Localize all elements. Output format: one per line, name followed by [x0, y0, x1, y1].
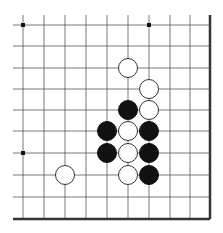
white-stone — [118, 58, 138, 78]
white-stone — [139, 79, 159, 99]
go-board — [0, 0, 223, 233]
white-stone — [139, 100, 159, 120]
black-stone — [97, 143, 117, 163]
black-stone — [118, 100, 138, 120]
star-point — [21, 23, 25, 27]
star-point — [147, 23, 151, 27]
black-stone — [139, 143, 159, 163]
white-stone — [118, 121, 138, 141]
black-stone — [139, 121, 159, 141]
white-stone — [118, 165, 138, 185]
white-stone — [55, 165, 75, 185]
star-point — [21, 151, 25, 155]
white-stone — [118, 143, 138, 163]
black-stone — [139, 165, 159, 185]
black-stone — [97, 121, 117, 141]
board-grid — [0, 0, 223, 233]
